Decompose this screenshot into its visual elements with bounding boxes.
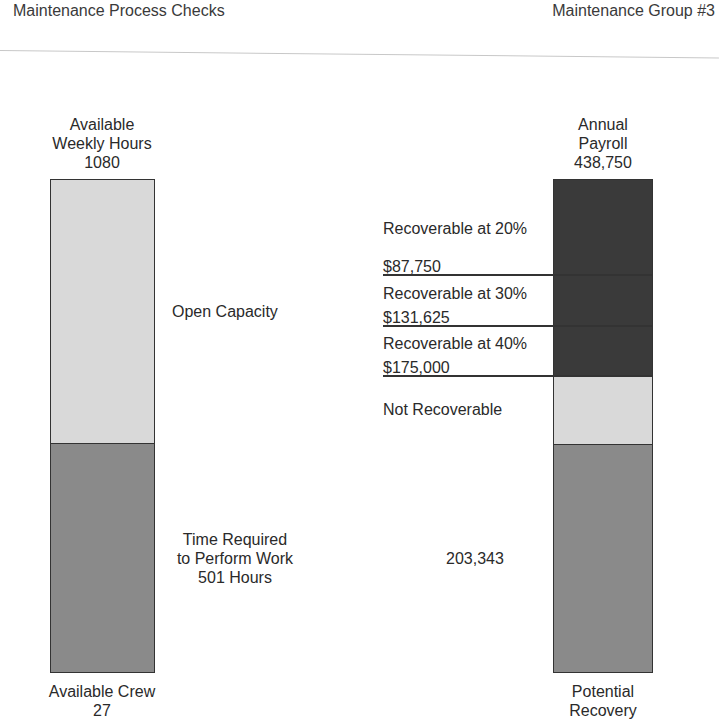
annual-payroll-label: Annual Payroll 438,750 (543, 115, 663, 172)
header-divider (0, 50, 719, 59)
open-capacity-label: Open Capacity (172, 302, 278, 321)
available-crew-label: Available Crew 27 (32, 682, 172, 720)
annual-payroll-value: 438,750 (543, 153, 663, 172)
recoverable-segment (554, 180, 652, 376)
tier-40-amount: $175,000 (383, 358, 450, 377)
annual-payroll-line2: Payroll (543, 134, 663, 153)
time-required-line1: Time Required (160, 530, 310, 549)
time-required-label: Time Required to Perform Work 501 Hours (160, 530, 310, 587)
time-required-line3: 501 Hours (160, 568, 310, 587)
not-recoverable-label: Not Recoverable (383, 400, 502, 419)
tier-20-label: Recoverable at 20% (383, 219, 527, 238)
payroll-bar (553, 179, 653, 673)
potential-recovery-value: 203,343 (446, 549, 504, 568)
available-crew-value: 27 (32, 701, 172, 720)
tier-40-label: Recoverable at 40% (383, 334, 527, 353)
annual-payroll-line1: Annual (543, 115, 663, 134)
time-required-segment (51, 443, 154, 672)
open-capacity-segment (51, 180, 154, 443)
weekly-hours-value: 1080 (42, 153, 162, 172)
page-title: Maintenance Process Checks (13, 2, 225, 20)
weekly-hours-label: Available Weekly Hours 1080 (42, 115, 162, 172)
weekly-hours-label-line2: Weekly Hours (42, 134, 162, 153)
time-required-line2: to Perform Work (160, 549, 310, 568)
tier-30-amount: $131,625 (383, 308, 450, 327)
available-crew-text: Available Crew (32, 682, 172, 701)
potential-recovery-segment (554, 444, 652, 672)
weekly-hours-label-line1: Available (42, 115, 162, 134)
group-title: Maintenance Group #3 (552, 2, 715, 20)
potential-recovery-label: Potential Recovery (543, 682, 663, 720)
tier-20-amount: $87,750 (383, 257, 441, 276)
potential-recovery-line1: Potential (543, 682, 663, 701)
not-recoverable-segment (554, 376, 652, 445)
potential-recovery-line2: Recovery (543, 701, 663, 720)
tier-30-label: Recoverable at 30% (383, 284, 527, 303)
hours-bar (50, 179, 155, 673)
